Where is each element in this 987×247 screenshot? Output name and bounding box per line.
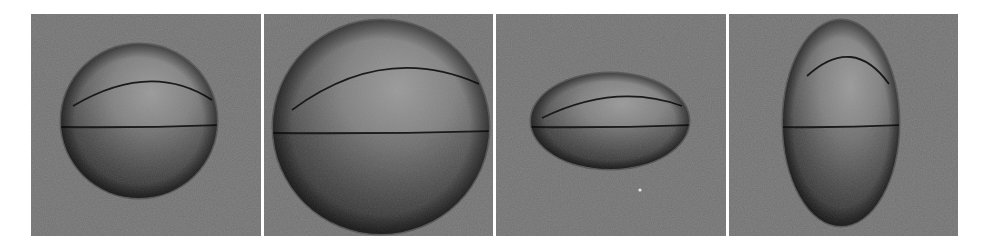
large-sphere-render	[264, 14, 493, 236]
vertical-ellipsoid-render	[729, 14, 958, 236]
sphere-render	[31, 14, 261, 236]
horizontal-ellipsoid-render	[496, 14, 726, 236]
panel-3	[496, 14, 726, 236]
panel-2	[264, 14, 493, 236]
artifact-dot	[638, 188, 641, 191]
panel-4	[729, 14, 958, 236]
panel-1	[31, 14, 261, 236]
